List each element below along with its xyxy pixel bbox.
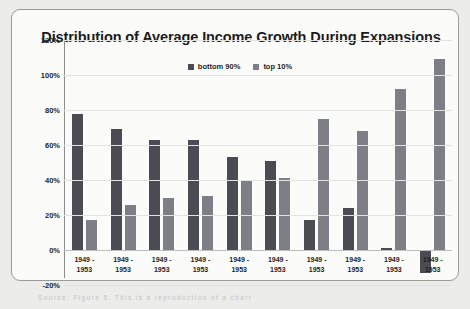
bar-group[interactable]: 1949 - 1953 [375, 10, 414, 282]
x-axis-tick-label: 1949 - 1953 [65, 255, 104, 274]
bar-group[interactable]: 1949 - 1953 [181, 10, 220, 282]
gridline [64, 285, 452, 286]
x-axis-tick-label: 1949 - 1953 [375, 255, 414, 274]
y-axis-tick-label: 20% [45, 211, 60, 220]
gridline [64, 110, 452, 111]
bar-top-10[interactable] [86, 220, 97, 250]
bar-top-10[interactable] [395, 89, 406, 250]
gridline [64, 180, 452, 181]
bar-group[interactable]: 1949 - 1953 [259, 10, 298, 282]
bar-group[interactable]: 1949 - 1953 [65, 10, 104, 282]
bar-group[interactable]: 1949 - 1953 [413, 10, 452, 282]
bar-bottom-90[interactable] [149, 140, 160, 250]
x-axis-tick-label: 1949 - 1953 [220, 255, 259, 274]
bar-top-10[interactable] [318, 119, 329, 250]
y-axis-tick-label: -20% [42, 281, 60, 290]
plot-area: 1949 - 19531949 - 19531949 - 19531949 - … [64, 10, 452, 282]
x-axis-tick-label: 1949 - 1953 [259, 255, 298, 274]
chart-card: Distribution of Average Income Growth Du… [11, 9, 459, 281]
x-axis-tick-label: 1949 - 1953 [142, 255, 181, 274]
bar-bottom-90[interactable] [304, 220, 315, 250]
bar-group[interactable]: 1949 - 1953 [142, 10, 181, 282]
y-axis-tick-label: 80% [45, 106, 60, 115]
y-axis-tick-label: 40% [45, 176, 60, 185]
x-axis-tick-label: 1949 - 1953 [413, 255, 452, 274]
screenshot-page: Distribution of Average Income Growth Du… [0, 0, 470, 309]
bar-bottom-90[interactable] [265, 161, 276, 250]
y-axis-tick-label: 60% [45, 141, 60, 150]
y-axis: 120%100%80%60%40%20%0%-20% [20, 10, 60, 282]
gridline [64, 215, 452, 216]
y-axis-tick-label: 0% [49, 246, 60, 255]
bar-group[interactable]: 1949 - 1953 [104, 10, 143, 282]
gridline [64, 40, 452, 41]
gridline [64, 75, 452, 76]
plot-wrapper: 120%100%80%60%40%20%0%-20% 1949 - 195319… [12, 10, 460, 282]
bar-group[interactable]: 1949 - 1953 [220, 10, 259, 282]
bar-bottom-90[interactable] [227, 157, 238, 250]
source-note: Source: Figure 5. This is a reproduction… [38, 294, 252, 301]
y-axis-tick-label: 120% [41, 36, 60, 45]
gridline [64, 145, 452, 146]
bar-group[interactable]: 1949 - 1953 [336, 10, 375, 282]
x-axis-tick-label: 1949 - 1953 [104, 255, 143, 274]
bar-top-10[interactable] [202, 196, 213, 250]
bar-bottom-90[interactable] [111, 129, 122, 250]
bar-bottom-90[interactable] [188, 140, 199, 250]
zero-line [64, 250, 452, 251]
bar-top-10[interactable] [125, 205, 136, 251]
x-axis-tick-label: 1949 - 1953 [297, 255, 336, 274]
x-axis-tick-label: 1949 - 1953 [336, 255, 375, 274]
bar-container: 1949 - 19531949 - 19531949 - 19531949 - … [65, 10, 452, 282]
bar-top-10[interactable] [434, 59, 445, 250]
bar-bottom-90[interactable] [72, 114, 83, 251]
x-axis-tick-label: 1949 - 1953 [181, 255, 220, 274]
y-axis-tick-label: 100% [41, 71, 60, 80]
bar-top-10[interactable] [163, 198, 174, 251]
bar-group[interactable]: 1949 - 1953 [297, 10, 336, 282]
bar-top-10[interactable] [357, 131, 368, 250]
